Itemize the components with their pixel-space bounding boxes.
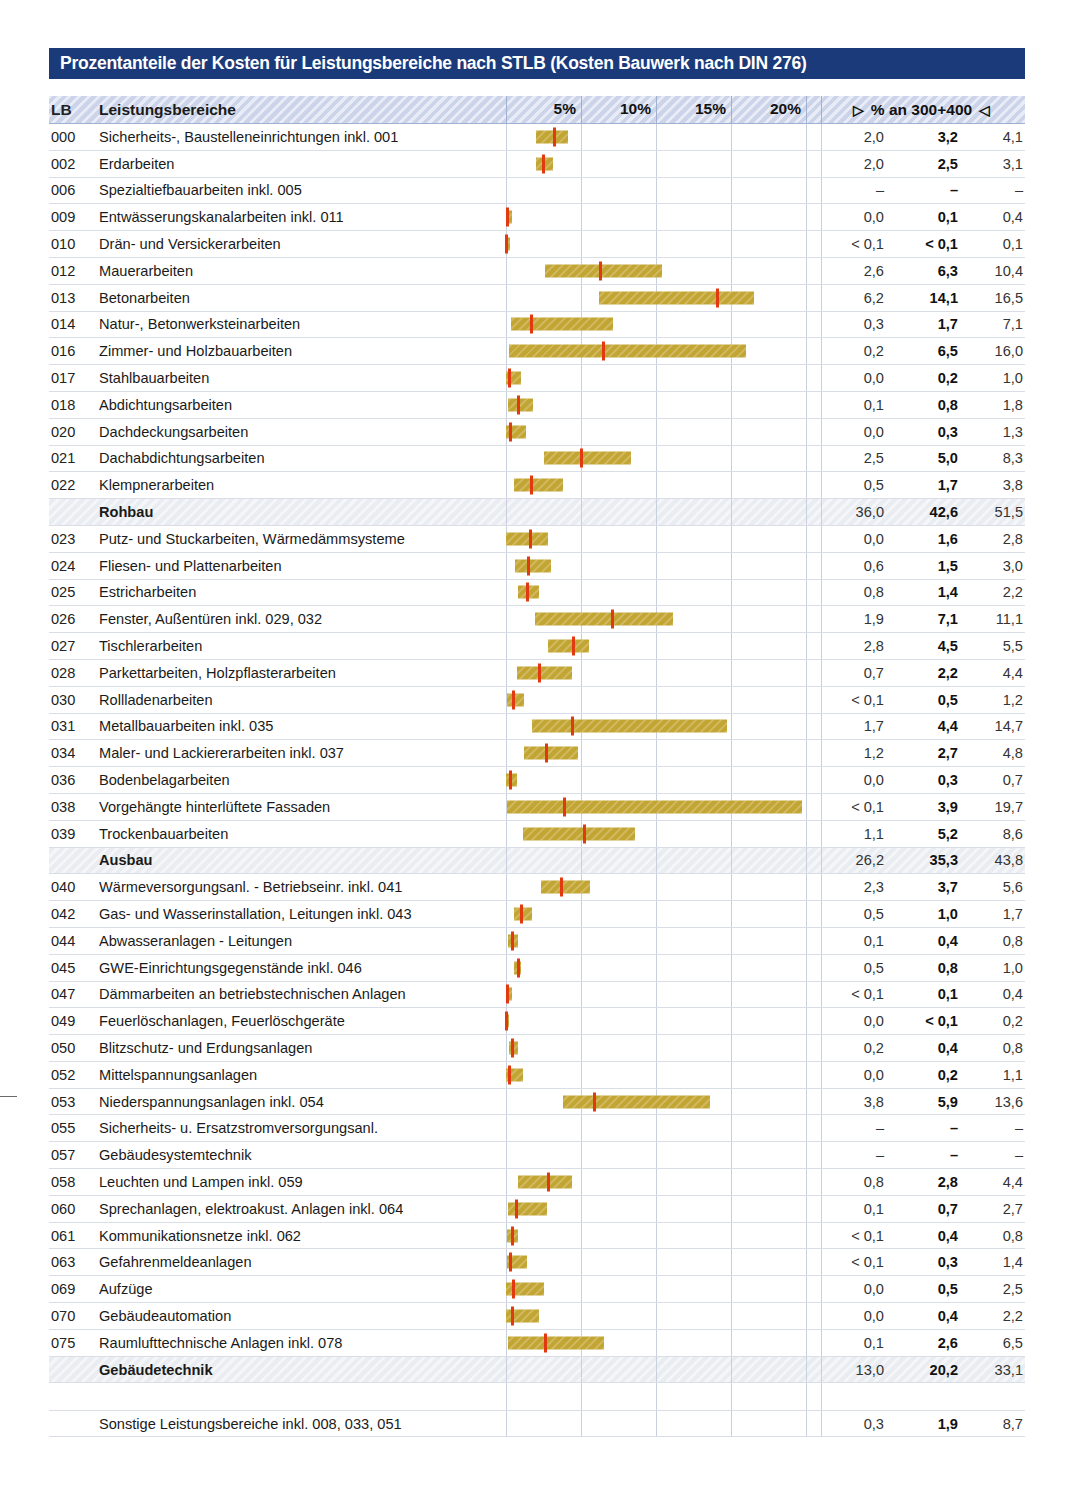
gridline-20 [806, 553, 807, 579]
mean-marker [538, 663, 541, 682]
gridline-20 [806, 1330, 807, 1356]
row-mean-value: 20,2 [888, 1362, 966, 1378]
row-lb-code: 060 [49, 1201, 99, 1217]
row-mean-value: 1,7 [888, 316, 966, 332]
row-lb-code: 017 [49, 370, 99, 386]
gridline-15 [731, 312, 732, 338]
gridline-end [821, 1062, 822, 1088]
gridline-10 [656, 1062, 657, 1088]
row-max-value: 1,0 [966, 960, 1025, 976]
row-max-value: 0,7 [966, 772, 1025, 788]
gridline-0 [506, 499, 507, 525]
gridline-20 [806, 1062, 807, 1088]
row-plot [498, 1411, 818, 1436]
row-lb-code: 050 [49, 1040, 99, 1056]
gridline-15 [731, 633, 732, 659]
row-lb-code: 063 [49, 1254, 99, 1270]
row-max-value: 43,8 [966, 852, 1025, 868]
row-min-value: 0,0 [818, 772, 888, 788]
range-bar [544, 452, 631, 465]
gridline-10 [656, 124, 657, 150]
row-lb-code: 070 [49, 1308, 99, 1324]
row-mean-value: 1,0 [888, 906, 966, 922]
mean-marker [511, 1038, 514, 1057]
row-plot [498, 312, 818, 338]
range-bar [509, 345, 746, 358]
gridline-20 [806, 151, 807, 177]
gridline-5 [581, 1303, 582, 1329]
row-name: Maler- und Lackiererarbeiten inkl. 037 [99, 745, 498, 761]
mean-marker [508, 369, 511, 388]
row-lb-code: 024 [49, 558, 99, 574]
gridline-20 [806, 874, 807, 900]
gridline-10 [656, 312, 657, 338]
gridline-0 [506, 874, 507, 900]
range-bar [518, 586, 539, 599]
axis-tick-5: 5% [554, 100, 581, 118]
row-mean-value: 0,3 [888, 772, 966, 788]
row-mean-value: 1,7 [888, 477, 966, 493]
document-page: Prozentanteile der Kosten für Leistungsb… [0, 0, 1072, 1499]
gridline-20 [806, 365, 807, 391]
mean-marker [527, 556, 530, 575]
row-mean-value: 2,5 [888, 156, 966, 172]
row-min-value: < 0,1 [818, 236, 888, 252]
range-bar [548, 640, 589, 653]
gridline-end [821, 1411, 822, 1436]
row-mean-value: 2,2 [888, 665, 966, 681]
row-lb-code: 028 [49, 665, 99, 681]
gridline-20 [806, 258, 807, 284]
header-percent-label: % an 300+400 [871, 101, 972, 119]
row-mean-value: 35,3 [888, 852, 966, 868]
table-row: 002Erdarbeiten2,02,53,1 [49, 151, 1025, 178]
gridline-10 [656, 1223, 657, 1249]
header-percent-group: ▷% an 300+400◁ [818, 101, 1025, 119]
table-row: 028Parkettarbeiten, Holzpflasterarbeiten… [49, 660, 1025, 687]
gridline-10 [656, 553, 657, 579]
row-min-value: < 0,1 [818, 692, 888, 708]
row-min-value: 0,0 [818, 424, 888, 440]
gridline-10 [656, 1142, 657, 1168]
gridline-15 [731, 1249, 732, 1275]
gridline-end [821, 848, 822, 874]
mean-marker [508, 1065, 511, 1084]
range-bar [535, 613, 673, 626]
row-mean-value: 0,8 [888, 397, 966, 413]
row-mean-value: 1,5 [888, 558, 966, 574]
row-min-value: 26,2 [818, 852, 888, 868]
row-max-value: 0,8 [966, 1228, 1025, 1244]
mean-marker [571, 717, 574, 736]
row-name: Bodenbelagarbeiten [99, 772, 498, 788]
row-min-value: 2,3 [818, 879, 888, 895]
range-bar [515, 559, 551, 572]
gridline-20 [806, 285, 807, 311]
row-mean-value: 6,3 [888, 263, 966, 279]
row-name: Gefahrenmeldeanlagen [99, 1254, 498, 1270]
row-name: Abwasseranlagen - Leitungen [99, 933, 498, 949]
gridline-0 [506, 714, 507, 740]
gridline-end [821, 1035, 822, 1061]
gridline-15 [731, 901, 732, 927]
gridline-10 [656, 178, 657, 204]
table-row: 061Kommunikationsnetze inkl. 062< 0,10,4… [49, 1223, 1025, 1250]
gridline-20 [806, 1249, 807, 1275]
row-min-value: 0,8 [818, 584, 888, 600]
gridline-0 [506, 606, 507, 632]
row-min-value: 0,1 [818, 1335, 888, 1351]
gridline-end [821, 714, 822, 740]
row-max-value: 0,4 [966, 986, 1025, 1002]
gridline-20 [806, 901, 807, 927]
table-row: 021Dachabdichtungsarbeiten2,55,08,3 [49, 446, 1025, 473]
range-bar [541, 881, 591, 894]
row-plot [498, 446, 818, 472]
mean-marker [611, 610, 614, 629]
row-mean-value: 0,5 [888, 1281, 966, 1297]
row-mean-value: – [888, 182, 966, 198]
table-row: 012Mauerarbeiten2,66,310,4 [49, 258, 1025, 285]
row-name: Rollladenarbeiten [99, 692, 498, 708]
row-plot [498, 231, 818, 257]
row-lb-code: 038 [49, 799, 99, 815]
row-lb-code: 009 [49, 209, 99, 225]
gridline-15 [731, 1008, 732, 1034]
gridline-20 [806, 1411, 807, 1436]
